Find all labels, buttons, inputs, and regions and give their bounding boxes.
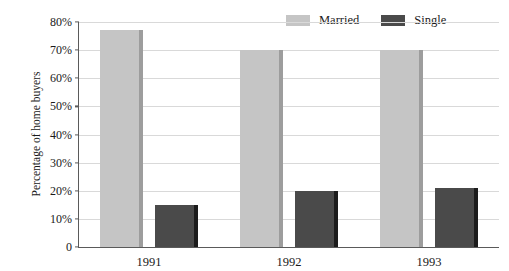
- gridline-80: [79, 22, 499, 23]
- y-tick-label-0: 0: [2, 240, 79, 255]
- bar-chart: Married Single Percentage of home buyers…: [0, 0, 509, 271]
- y-tick-label-10: 10%: [2, 211, 79, 226]
- bar-shadow-edge: [334, 191, 338, 247]
- plot-area: 010%20%30%40%50%60%70%80%199119921993: [78, 22, 499, 248]
- bar-shadow-edge: [279, 50, 283, 247]
- y-tick-label-20: 20%: [2, 183, 79, 198]
- bar-single-1992: [295, 191, 338, 247]
- bar-single-1993: [435, 188, 478, 247]
- y-tick-label-70: 70%: [2, 43, 79, 58]
- bar-shadow-edge: [139, 30, 143, 247]
- y-tick-label-30: 30%: [2, 155, 79, 170]
- bar-face: [380, 50, 423, 247]
- bar-face: [295, 191, 338, 247]
- bar-married-1993: [380, 50, 423, 247]
- bar-shadow-edge: [419, 50, 423, 247]
- x-tick-label-1993: 1993: [417, 255, 442, 270]
- bar-single-1991: [155, 205, 198, 247]
- y-tick-label-40: 40%: [2, 127, 79, 142]
- x-tick-label-1991: 1991: [137, 255, 162, 270]
- x-tick-label-1992: 1992: [277, 255, 302, 270]
- y-tick-label-80: 80%: [2, 15, 79, 30]
- y-tick-label-50: 50%: [2, 99, 79, 114]
- bar-shadow-edge: [194, 205, 198, 247]
- bar-shadow-edge: [474, 188, 478, 247]
- bar-married-1992: [240, 50, 283, 247]
- bar-face: [435, 188, 478, 247]
- bar-face: [155, 205, 198, 247]
- bar-married-1991: [100, 30, 143, 247]
- bar-face: [240, 50, 283, 247]
- bar-face: [100, 30, 143, 247]
- y-tick-label-60: 60%: [2, 71, 79, 86]
